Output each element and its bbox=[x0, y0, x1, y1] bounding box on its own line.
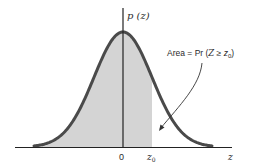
normal-distribution-figure: p (z) 0 z0 z Area = Pr (Z ≥ z0) bbox=[0, 0, 258, 167]
arrow-head-icon bbox=[159, 125, 165, 132]
y-axis-label: p (z) bbox=[127, 10, 150, 21]
x-axis-label: z bbox=[227, 152, 233, 162]
shaded-area bbox=[34, 32, 152, 147]
area-annotation: Area = Pr (Z ≥ z0) bbox=[167, 48, 234, 59]
normal-curve-diagram: p (z) 0 z0 z Area = Pr (Z ≥ z0) bbox=[0, 0, 258, 167]
origin-label: 0 bbox=[119, 152, 124, 162]
annotation-arrow bbox=[160, 63, 202, 129]
z0-label: z0 bbox=[146, 152, 156, 163]
